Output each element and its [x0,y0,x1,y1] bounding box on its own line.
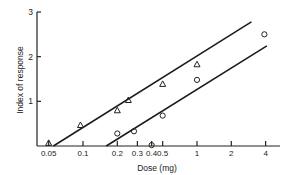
x-tick-label: 2 [229,149,234,158]
y-axis-label: Index of response [15,46,25,114]
x-tick-label: 0.1 [77,149,89,158]
x-tick-label: 4 [263,149,268,158]
circle-marker [160,113,165,118]
x-tick-label: 0.05 [41,149,57,158]
triangle-marker [160,81,166,87]
y-tick-label: 3 [28,7,33,17]
circle-marker [115,131,120,136]
y-tick-label: 1 [28,96,33,106]
x-tick-label: 0.2 [112,149,124,158]
circles-fit-line [106,46,267,146]
x-tick-label: 0.5 [157,149,169,158]
circle-marker [194,77,199,82]
fit-lines [53,22,266,146]
circle-marker [262,32,267,37]
x-tick-label: 0.3 [132,149,144,158]
triangle-marker [194,61,200,67]
x-axis-label: Dose (mg) [137,163,177,173]
tick-marks: 0.050.10.20.30.40.5124123 [28,7,268,158]
y-tick-label: 2 [28,52,33,62]
axes [37,12,280,146]
triangle-marker [77,122,83,128]
x-tick-label: 0.4 [146,149,158,158]
x-tick-label: 1 [195,149,200,158]
dose-response-chart: 0.050.10.20.30.40.5124123 Dose (mg) Inde… [0,0,291,175]
